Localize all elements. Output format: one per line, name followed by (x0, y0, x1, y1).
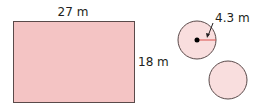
radius-label: 4.3 m (215, 11, 250, 25)
rectangle-width-label: 27 m (58, 5, 89, 19)
geometry-diagram: 27 m 18 m 4.3 m (0, 0, 261, 112)
rectangle-height-label: 18 m (138, 55, 169, 69)
center-dot (195, 38, 200, 43)
circle-bottom (209, 61, 247, 99)
rectangle (14, 22, 135, 103)
